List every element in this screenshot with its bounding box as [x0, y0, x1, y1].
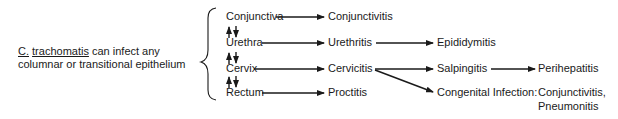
bidirectional-arrows-icon: [229, 26, 236, 88]
site-to-infection-arrows-icon: [254, 17, 324, 93]
curly-brace-icon: [201, 8, 216, 100]
infection-to-complication-arrows-icon: [375, 43, 535, 92]
diagram-arrows: [0, 0, 618, 119]
